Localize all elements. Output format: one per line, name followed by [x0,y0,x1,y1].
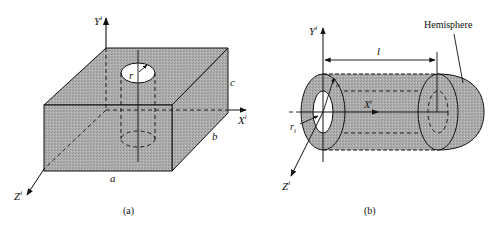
z-axis-label-a: Zi [14,190,22,202]
x-axis-label-a: Xi [238,114,247,126]
width-label: a [110,173,116,184]
y-axis-label-a: Yi [94,15,102,27]
inner-radius-label: ri [290,122,296,135]
panel-b-cylinder [289,28,484,176]
height-label: c [230,77,235,88]
length-label: l [377,46,380,57]
caption-b: (b) [364,206,376,216]
hemisphere-label: Hemisphere [424,20,472,30]
depth-label: b [212,131,218,142]
caption-a: (a) [123,206,134,216]
z-axis-label-b: Zi [282,180,290,192]
panel-a-block [27,18,246,195]
radius-label: r [129,70,133,81]
y-axis-label-b: Yi [309,25,317,37]
outer-radius-label: ro [332,76,339,89]
z-axis-a [27,169,44,195]
figure: Yi Xi Zi r c b a (a) Yi Xi Zi ro ri l He… [0,0,488,228]
x-axis-label-b: Xi [364,99,372,110]
